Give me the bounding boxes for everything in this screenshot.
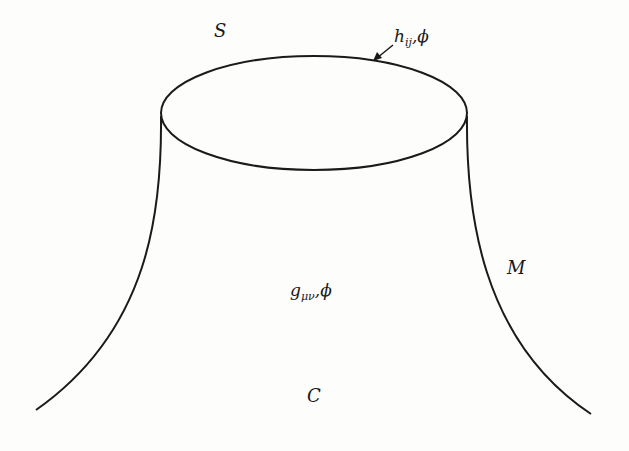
right-side-curve: [467, 116, 591, 414]
left-side-curve: [36, 116, 161, 410]
label-C: C: [307, 385, 321, 406]
label-h: h: [394, 26, 405, 46]
label-M: M: [507, 257, 525, 278]
manifold-diagram: [0, 0, 629, 451]
label-bulk-fields: gμν,ϕ: [290, 280, 332, 303]
label-g-subscript: μν: [301, 290, 315, 303]
label-g-rest: ,ϕ: [315, 280, 332, 300]
boundary-ellipse: [161, 56, 467, 170]
arrow-head-icon: [373, 52, 382, 61]
label-h-subscript: ij: [405, 36, 412, 49]
label-h-rest: ,ϕ: [412, 26, 429, 46]
label-g: g: [290, 280, 301, 300]
label-S: S: [214, 20, 226, 41]
label-boundary-fields: hij,ϕ: [394, 26, 429, 49]
